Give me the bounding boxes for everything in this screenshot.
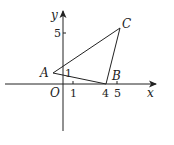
coordinate-diagram: x y O 1 4 5 5 A B C 1 [0,0,174,145]
point-c-label: C [122,17,131,31]
point-b-label: B [111,69,121,83]
point-a-label: A [39,66,49,80]
x-tick-label-5: 5 [114,87,121,100]
y-tick-label-5: 5 [54,27,61,40]
x-tick-label-1: 1 [70,87,77,100]
x-axis-label: x [147,86,154,100]
angle-1-label: 1 [65,67,72,80]
x-tick-label-4: 4 [102,87,109,100]
origin-label: O [50,86,60,100]
y-axis-label: y [50,8,58,22]
